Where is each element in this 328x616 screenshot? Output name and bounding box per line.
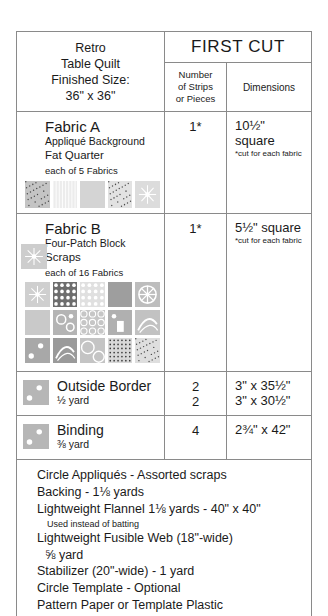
- fabric-swatch: [53, 338, 78, 363]
- fabric-a-desc1: Appliqué Background: [45, 135, 160, 148]
- outside-border-dimensions-cell: 3" x 35½" 3" x 30½": [227, 372, 311, 415]
- table-row-fabric-b: Fabric B Four-Patch Block Scraps each of…: [17, 213, 311, 371]
- quilt-title-line3: Finished Size:: [21, 72, 160, 88]
- table-row-outside-border: Outside Border ½ yard 2 2 3" x 35½" 3" x…: [17, 371, 311, 415]
- fabric-a-pieces: 1*: [165, 112, 227, 213]
- note-pattern-paper: Pattern Paper or Template Plastic: [37, 597, 305, 614]
- column-headers: Number of Strips or Pieces Dimensions: [165, 63, 311, 111]
- fabric-a-name: Fabric A: [45, 118, 160, 135]
- fabric-b-dimensions-cell: 5½" square *cut for each fabric: [227, 214, 311, 371]
- fabric-swatch-row: [25, 310, 160, 335]
- fabric-swatch: [25, 338, 50, 363]
- outside-border-swatch: [23, 380, 49, 405]
- quilt-title-line4: 36" x 36": [21, 88, 160, 104]
- fabric-b-name: Fabric B: [45, 220, 160, 237]
- binding-pieces: 4: [165, 416, 227, 459]
- outside-border-yardage: ½ yard: [57, 394, 160, 407]
- binding-name: Binding: [57, 422, 160, 438]
- quilt-title-line1: Retro: [21, 40, 160, 56]
- binding-yardage: ⅜ yard: [57, 438, 160, 451]
- fabric-b-count: each of 16 Fabrics: [45, 267, 160, 279]
- fabric-swatch: [53, 310, 78, 335]
- fabric-a-description: Fabric A Appliqué Background Fat Quarter…: [17, 112, 165, 213]
- fabric-swatch: [80, 338, 105, 363]
- col-number-line3: or Pieces: [167, 93, 224, 105]
- col-number-line2: of Strips: [167, 81, 224, 93]
- fabric-swatch: [80, 181, 105, 208]
- fabric-swatch: [25, 181, 50, 208]
- outside-border-dimensions-line1: 3" x 35½": [235, 378, 307, 393]
- note-stabilizer: Stabilizer (20"-wide) - 1 yard: [37, 563, 305, 580]
- cutting-chart-table: Retro Table Quilt Finished Size: 36" x 3…: [16, 31, 312, 616]
- note-fusible-web-sub: ⅝ yard: [45, 547, 305, 563]
- fabric-a-count: each of 5 Fabrics: [45, 165, 160, 177]
- outside-border-description: Outside Border ½ yard: [17, 372, 165, 415]
- fabric-a-dim-note: *cut for each fabric: [235, 149, 307, 159]
- fabric-swatch: [53, 181, 78, 208]
- outside-border-pieces: 2 2: [165, 372, 227, 415]
- fabric-swatch: [108, 181, 133, 208]
- fabric-b-description: Fabric B Four-Patch Block Scraps each of…: [17, 214, 165, 371]
- fabric-swatch: [108, 338, 133, 363]
- fabric-swatch-row: [25, 282, 160, 307]
- fabric-a-swatch-row: [25, 181, 160, 208]
- fabric-b-dimensions: 5½" square: [235, 220, 307, 235]
- fabric-swatch: [80, 310, 105, 335]
- fabric-swatch: [135, 310, 160, 335]
- fabric-swatch: [135, 181, 160, 208]
- table-row-binding: Binding ⅜ yard 4 2¾" x 42": [17, 415, 311, 459]
- first-cut-group: FIRST CUT Number of Strips or Pieces Dim…: [165, 32, 311, 111]
- fabric-swatch: [108, 282, 133, 307]
- fabric-b-desc2: Scraps: [45, 250, 160, 264]
- note-flannel: Lightweight Flannel 1⅛ yards - 40" x 40": [37, 501, 305, 518]
- outside-border-pieces-line1: 2: [167, 379, 224, 394]
- fabric-swatch: [25, 282, 50, 307]
- table-row-fabric-a: Fabric A Appliqué Background Fat Quarter…: [17, 111, 311, 213]
- fabric-swatch: [108, 310, 133, 335]
- note-circle-appliques: Circle Appliqués - Assorted scraps: [37, 467, 305, 484]
- fabric-swatch: [25, 310, 50, 335]
- fabric-swatch: [135, 282, 160, 307]
- binding-swatch: [23, 424, 49, 449]
- fabric-swatch: [80, 282, 105, 307]
- note-circle-template: Circle Template - Optional: [37, 580, 305, 597]
- column-header-number: Number of Strips or Pieces: [165, 63, 227, 111]
- fabric-a-desc2: Fat Quarter: [45, 148, 160, 162]
- fabric-swatch-row: [25, 338, 160, 363]
- fabric-b-lead-swatch: [21, 244, 47, 269]
- quilt-title-line2: Table Quilt: [21, 56, 160, 72]
- fabric-b-pieces: 1*: [165, 214, 227, 371]
- fabric-swatch: [135, 338, 160, 363]
- outside-border-name: Outside Border: [57, 378, 160, 394]
- fabric-a-dimensions: 10½" square: [235, 118, 307, 148]
- col-number-line1: Number: [167, 69, 224, 81]
- note-fusible-web: Lightweight Fusible Web (18"-wide): [37, 530, 305, 547]
- binding-description: Binding ⅜ yard: [17, 416, 165, 459]
- table-header: Retro Table Quilt Finished Size: 36" x 3…: [17, 32, 311, 111]
- quilt-title-cell: Retro Table Quilt Finished Size: 36" x 3…: [17, 32, 165, 111]
- column-header-dimensions: Dimensions: [227, 63, 311, 111]
- note-backing: Backing - 1⅛ yards: [37, 484, 305, 501]
- outside-border-pieces-line2: 2: [167, 394, 224, 409]
- fabric-b-dim-note: *cut for each fabric: [235, 236, 307, 246]
- first-cut-heading: FIRST CUT: [165, 32, 311, 63]
- fabric-swatch: [53, 282, 78, 307]
- supplies-notes: Circle Appliqués - Assorted scraps Backi…: [17, 459, 311, 616]
- binding-dimensions: 2¾" x 42": [227, 416, 311, 459]
- fabric-b-desc1: Four-Patch Block: [45, 237, 160, 250]
- fabric-b-swatch-grid: [25, 282, 160, 363]
- fabric-a-dimensions-cell: 10½" square *cut for each fabric: [227, 112, 311, 213]
- outside-border-dimensions-line2: 3" x 30½": [235, 393, 307, 408]
- note-flannel-sub: Used instead of batting: [47, 518, 305, 530]
